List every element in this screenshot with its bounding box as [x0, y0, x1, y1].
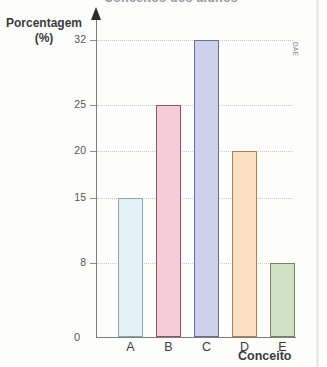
y-axis-line: [96, 18, 97, 337]
y-axis-arrow-icon: [91, 7, 101, 20]
y-axis-tick-label: 25: [58, 98, 86, 110]
y-axis-title-unit: (%): [2, 31, 86, 46]
illustration-credit: DAE: [292, 42, 299, 57]
x-axis-label-a: A: [118, 340, 144, 354]
x-axis-line: [96, 337, 296, 338]
x-axis-label-b: B: [156, 340, 182, 354]
y-axis-zero-label: 0: [74, 331, 80, 343]
bar-c: [194, 40, 219, 337]
bar-b: [156, 105, 181, 337]
x-axis-title: Conceito: [238, 349, 291, 363]
plot-area: 815202532ABCDE: [0, 0, 327, 367]
bar-e: [270, 263, 295, 337]
y-axis-title-main: Porcentagem: [6, 16, 82, 30]
chart-page: Conceitos dos alunos 815202532ABCDE 0 Po…: [0, 0, 327, 367]
y-axis-tick-label: 20: [58, 144, 86, 156]
y-axis-tick-label: 15: [58, 191, 86, 203]
bar-d: [232, 151, 257, 337]
y-axis-tick-label: 8: [58, 256, 86, 268]
bar-a: [118, 198, 143, 337]
y-axis-title: Porcentagem (%): [2, 16, 86, 46]
x-axis-label-c: C: [194, 340, 220, 354]
